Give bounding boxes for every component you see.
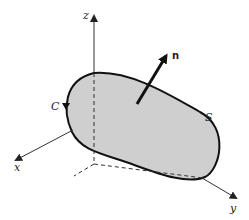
- normal-label: n: [172, 51, 179, 61]
- x-axis-hidden: [74, 164, 94, 176]
- surface-label: S: [205, 112, 213, 123]
- curve-label: C: [51, 101, 59, 112]
- y-axis-label: y: [230, 203, 236, 214]
- surface-diagram: [0, 0, 249, 220]
- y-axis-out: [202, 178, 236, 198]
- surface-s: [67, 73, 220, 180]
- z-axis-label: z: [83, 10, 89, 21]
- diagram-canvas: z x y n S C: [0, 0, 249, 220]
- x-axis-label: x: [14, 162, 20, 173]
- x-axis-out: [16, 130, 73, 160]
